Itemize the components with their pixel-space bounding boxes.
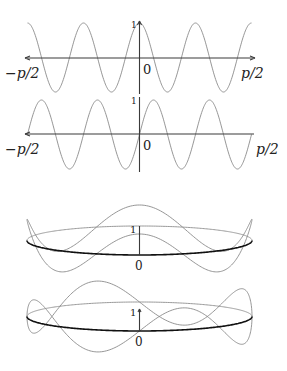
- panel-circle-sin: 1 0: [27, 281, 252, 352]
- fourier-mode-diagram: 1 0 −p/2 p/2 1 0 −p/2 p/2 1 0 1 0: [0, 0, 287, 371]
- panel-flat-cos: 1 0 −p/2 p/2: [5, 20, 264, 94]
- left-bound-label: −p/2: [5, 65, 39, 81]
- origin-label: 0: [143, 62, 151, 77]
- y-tick-label: 1: [130, 224, 136, 235]
- y-tick-label: 1: [131, 20, 137, 30]
- origin-label: 0: [135, 335, 143, 349]
- origin-label: 0: [135, 259, 143, 273]
- left-bound-label: −p/2: [5, 141, 39, 157]
- y-tick-label: 1: [131, 96, 137, 106]
- origin-label: 0: [143, 138, 151, 153]
- panel-flat-sin: 1 0 −p/2 p/2: [5, 96, 279, 172]
- right-bound-label: p/2: [241, 65, 264, 81]
- panel-circle-cos: 1 0: [27, 205, 252, 273]
- right-bound-label: p/2: [256, 141, 279, 157]
- y-tick-label: 1: [130, 307, 136, 318]
